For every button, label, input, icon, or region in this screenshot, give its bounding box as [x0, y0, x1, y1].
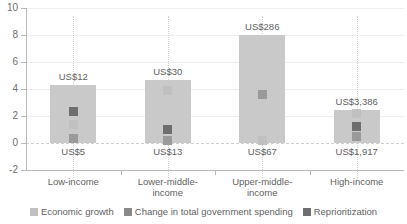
y-tick-label: 6	[0, 57, 18, 67]
data-marker[interactable]	[352, 122, 361, 131]
data-marker[interactable]	[352, 109, 361, 118]
bar-top-value-label: US$3,386	[317, 96, 397, 107]
y-tick-label: 10	[0, 3, 18, 13]
legend-label: Economic growth	[41, 206, 114, 217]
y-tick-mark	[21, 35, 26, 36]
y-tick-mark	[21, 170, 26, 171]
y-tick-mark	[21, 62, 26, 63]
x-axis-category-label: Lower-middle- income	[121, 176, 216, 198]
data-marker[interactable]	[163, 125, 172, 134]
x-axis-separator	[121, 170, 122, 175]
x-axis-separator	[215, 170, 216, 175]
y-tick-mark	[21, 89, 26, 90]
bar-bottom-value-label: US$5	[33, 146, 113, 157]
gridline	[26, 62, 404, 63]
legend-swatch-icon	[30, 208, 38, 216]
y-tick-label: 2	[0, 111, 18, 121]
gridline	[26, 8, 404, 9]
y-tick-label: 4	[0, 84, 18, 94]
x-axis-category-label: Upper-middle- income	[215, 176, 310, 198]
data-marker[interactable]	[69, 120, 78, 129]
y-axis-line	[26, 8, 27, 170]
data-marker[interactable]	[258, 136, 267, 145]
zero-line	[26, 143, 404, 144]
legend-item[interactable]: Change in total government spending	[124, 206, 293, 217]
bar-top-value-label: US$12	[33, 71, 113, 82]
data-marker[interactable]	[69, 134, 78, 143]
legend-item[interactable]: Economic growth	[30, 206, 114, 217]
y-tick-label: 8	[0, 30, 18, 40]
y-tick-mark	[21, 116, 26, 117]
legend-item[interactable]: Reprioritization	[303, 206, 377, 217]
x-axis-category-label: High-income	[310, 176, 405, 187]
y-tick-mark	[21, 8, 26, 9]
bar-bottom-value-label: US$13	[128, 146, 208, 157]
chart-container: 1086420-2 US$12US$5US$30US$13US$286US$67…	[0, 0, 407, 224]
x-axis-separator	[310, 170, 311, 175]
chart-legend: Economic growthChange in total governmen…	[0, 206, 407, 217]
bar-top-value-label: US$286	[222, 21, 302, 32]
y-tick-label: 0	[0, 138, 18, 148]
legend-label: Change in total government spending	[135, 206, 293, 217]
x-axis-category-label: Low-income	[26, 176, 121, 187]
data-marker[interactable]	[69, 107, 78, 116]
data-marker[interactable]	[352, 132, 361, 141]
legend-label: Reprioritization	[314, 206, 377, 217]
bar-top-value-label: US$30	[128, 66, 208, 77]
data-marker[interactable]	[163, 86, 172, 95]
bar-bottom-value-label: US$1,917	[317, 146, 397, 157]
y-tick-mark	[21, 143, 26, 144]
bar-bottom-value-label: US$67	[222, 146, 302, 157]
legend-swatch-icon	[124, 208, 132, 216]
data-marker[interactable]	[163, 136, 172, 145]
legend-swatch-icon	[303, 208, 311, 216]
gridline	[26, 35, 404, 36]
data-marker[interactable]	[258, 90, 267, 99]
y-tick-label: -2	[0, 165, 18, 175]
